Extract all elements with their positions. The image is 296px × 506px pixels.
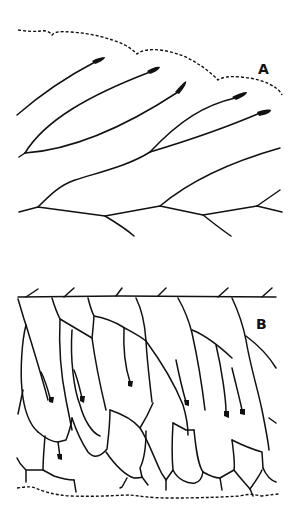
panel-b-nucleus-dot-1	[128, 381, 133, 387]
panel-b-cell-end-6	[232, 368, 242, 410]
panel-a-strand-6	[38, 152, 150, 207]
panel-b-tick-4	[158, 288, 166, 296]
panel-a-strand-4	[150, 98, 235, 152]
panel-b-net-6	[106, 452, 142, 478]
panel-b-wall-5	[71, 330, 100, 436]
panel-b-nucleus-dot-3	[49, 397, 54, 403]
panel-b-label: B	[256, 316, 267, 332]
panel-b-net-23	[263, 468, 276, 482]
panel-b-net-11	[17, 458, 43, 470]
panel-b-cell-end-2	[216, 345, 226, 412]
panel-a: A	[17, 30, 282, 236]
panel-a-base-branch-2	[203, 215, 231, 236]
panel-a-fork-stub	[19, 153, 25, 157]
panel-b-net-17	[166, 470, 173, 480]
panel-b-net-1	[18, 390, 23, 414]
panel-b-tick-6	[262, 288, 272, 297]
panel-b-cell-end-5	[176, 360, 186, 402]
panel-a-base-axis	[19, 206, 257, 216]
panel-b-cell-end-1	[124, 328, 130, 382]
panel-b-wall-4	[60, 319, 92, 338]
panel-b-tick-1	[26, 289, 38, 297]
panel-b-wall-2	[21, 325, 38, 432]
panel-b-net-3	[72, 410, 110, 456]
panel-b-net-18	[194, 430, 234, 478]
panel-b-cell-end-3	[41, 372, 50, 398]
panel-a-base-branch-4	[257, 206, 282, 212]
panel-b-dashed-outline	[17, 487, 280, 498]
panel-b-nucleus-dot-2	[224, 411, 229, 418]
panel-b-tick-5	[218, 288, 228, 297]
panel-b-net-25	[173, 423, 194, 430]
panel-b-net-21	[232, 440, 263, 468]
figure-canvas: A	[0, 0, 296, 506]
panel-b-net-10	[74, 480, 76, 492]
panel-b-wall-7	[94, 316, 146, 341]
panel-b-tick-3	[116, 288, 122, 296]
panel-a-dashed-outline	[18, 30, 282, 95]
panel-b-wall-8	[136, 298, 152, 402]
panel-b-tick-2	[64, 288, 74, 297]
panel-a-strand-3	[25, 92, 178, 153]
panel-b-nucleus-dot-4	[80, 396, 85, 403]
panel-b-net-19	[220, 478, 222, 490]
panel-a-label: A	[258, 61, 269, 77]
panel-b-net-2	[38, 418, 72, 442]
panel-b-net-4	[110, 403, 153, 428]
panel-b-wall-6	[88, 298, 106, 410]
panel-b-nucleus-dot-6	[240, 409, 245, 415]
panel-b-net-14	[142, 477, 148, 485]
panel-b-nucleus-dot-5	[184, 400, 189, 406]
panel-a-strand-1	[17, 62, 95, 115]
panel-a-base-branch-3	[257, 190, 280, 206]
panel-b-top-line	[18, 296, 276, 297]
panel-a-strand-7	[160, 148, 280, 206]
panel-b-wall-3	[52, 298, 72, 430]
panel-a-base-branch-1	[105, 216, 134, 236]
panel-a-strand-2	[25, 72, 150, 153]
panel-a-club-tip-3	[175, 81, 186, 94]
panel-a-strand-5	[150, 113, 260, 152]
panel-b-net-13	[120, 478, 127, 488]
panel-a-club-tip-5	[257, 110, 271, 116]
panel-b-net-24	[269, 418, 276, 423]
panel-b-nucleus-dot-7	[57, 454, 62, 460]
panel-b-wall-11	[192, 330, 232, 358]
panel-b: B	[17, 288, 280, 498]
panel-a-club-tip-2	[147, 67, 160, 74]
panel-b-wall-10	[178, 298, 205, 410]
